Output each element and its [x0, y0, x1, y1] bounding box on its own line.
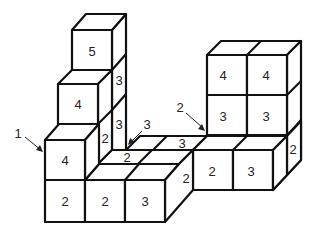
label-right-3b: 3 [262, 109, 269, 124]
label-cube-5: 5 [88, 44, 95, 59]
cube-right-4a [207, 55, 247, 95]
label-right-side: 2 [289, 142, 296, 157]
callout-2-label: 2 [176, 100, 183, 115]
label-cube-4-upper: 4 [74, 97, 81, 112]
callout-1-arrowhead [36, 145, 43, 152]
callout-3-label: 3 [143, 117, 150, 132]
label-back-strip-mid: 3 [115, 117, 122, 132]
right-tall-block: 4 4 3 3 [207, 41, 301, 135]
label-back-strip-top: 3 [115, 73, 122, 88]
cube-right-3a [207, 95, 247, 135]
label-bottom-3: 3 [141, 194, 148, 209]
label-right-4a: 4 [219, 68, 226, 83]
label-cube-4-front: 4 [61, 153, 68, 168]
cube-diagram: 5 4 3 3 2 4 4 3 3 3 2 [0, 0, 318, 236]
label-right-front-1: 2 [208, 164, 215, 179]
label-inner-floor: 2 [123, 150, 130, 165]
label-bottom-side: 2 [182, 171, 189, 186]
cube-diagram-svg: 5 4 3 3 2 4 4 3 3 3 2 [0, 0, 318, 236]
label-floor-back: 3 [178, 136, 185, 151]
label-right-3a: 3 [219, 109, 226, 124]
callout-2-arrow [186, 113, 203, 128]
label-right-front-2: 3 [247, 164, 254, 179]
callout-1-label: 1 [14, 126, 21, 141]
label-bottom-1: 2 [61, 194, 68, 209]
label-right-4b: 4 [262, 68, 269, 83]
back-strip-side [112, 14, 126, 166]
label-back-strip-low: 2 [101, 131, 108, 146]
label-bottom-2: 2 [101, 194, 108, 209]
